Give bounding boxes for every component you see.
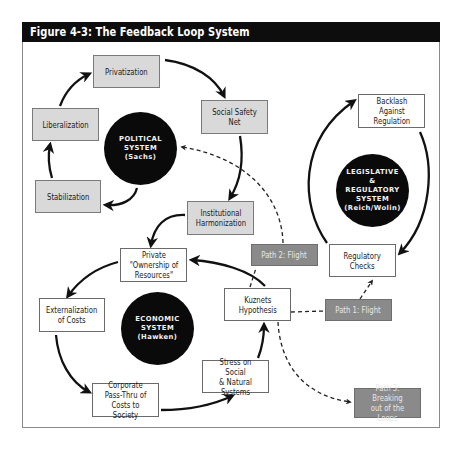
box-path3-breaking-out: Path 3: Breaking out of the Loops: [354, 388, 421, 418]
box-corporate-pass-thru: Corporate Pass-Thru of Costs to Society: [92, 383, 159, 417]
arrow-private-to-externalization: [68, 262, 118, 296]
arrow-corporate-to-stress: [161, 396, 232, 410]
political-system-circle: POLITICAL SYSTEM (Sachs): [104, 112, 177, 185]
box-path1-flight: Path 1: Flight: [325, 299, 392, 321]
dashed-kuznets-to-path3: [278, 322, 350, 402]
economic-system-label: ECONOMIC SYSTEM (Hawken): [135, 315, 179, 342]
box-backlash-against-regulation: Backlash Against Regulation: [358, 94, 425, 128]
arrow-liberalization-to-privatization: [60, 74, 89, 106]
arrow-safetynet-to-institutional: [230, 136, 242, 198]
arrow-political-to-stabilization: [106, 188, 137, 205]
box-stress-on-systems: Stress on Social & Natural Systems: [202, 360, 269, 393]
arrow-stabilization-to-liberalization: [49, 145, 52, 178]
legislative-system-label: LEGISLATIVE & REGULATORY SYSTEM (Reich/W…: [344, 168, 400, 213]
dashed-path1-to-regulatory: [360, 281, 372, 299]
dashed-kuznets-to-path1: [291, 311, 324, 312]
box-private-ownership: Private "Ownership of Resources": [120, 248, 187, 282]
box-path2-flight: Path 2: Flight: [251, 244, 318, 266]
box-liberalization: Liberalization: [32, 108, 99, 141]
box-social-safety-net: Social Safety Net: [201, 100, 268, 134]
arrow-institutional-to-private: [151, 215, 185, 245]
box-institutional-harmonization: Institutional Harmonization: [187, 201, 254, 235]
box-regulatory-checks: Regulatory Checks: [329, 244, 396, 277]
box-privatization: Privatization: [93, 55, 160, 88]
box-kuznets-hypothesis: Kuznets Hypothesis: [224, 288, 291, 321]
economic-system-circle: ECONOMIC SYSTEM (Hawken): [121, 292, 194, 365]
arrow-privatization-to-safetynet: [165, 60, 224, 96]
arrow-externalization-to-corporate: [56, 335, 89, 392]
legislative-system-circle: LEGISLATIVE & REGULATORY SYSTEM (Reich/W…: [336, 154, 409, 227]
box-externalization-of-costs: Externalization of Costs: [39, 298, 105, 332]
arrow-stress-to-kuznets: [258, 325, 264, 358]
political-system-label: POLITICAL SYSTEM (Sachs): [119, 135, 162, 162]
box-stabilization: Stabilization: [35, 180, 101, 213]
